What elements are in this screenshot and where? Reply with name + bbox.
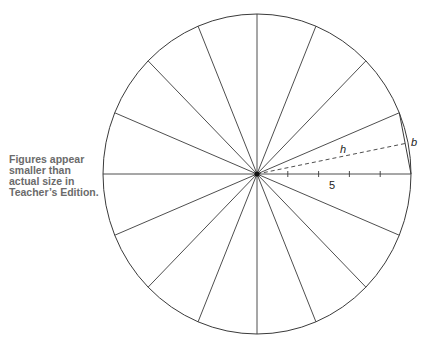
spoke-line bbox=[198, 174, 257, 322]
sector-circle-diagram: h b 5 bbox=[0, 0, 428, 348]
spoke-line bbox=[198, 26, 257, 174]
spoke-line bbox=[115, 174, 257, 235]
radius-label: 5 bbox=[329, 179, 335, 191]
spoke-line bbox=[115, 113, 257, 174]
spoke-line bbox=[257, 174, 366, 287]
center-point bbox=[254, 171, 259, 176]
spoke-line bbox=[257, 26, 316, 174]
spoke-line bbox=[148, 61, 257, 174]
spoke-line bbox=[257, 174, 316, 322]
spoke-line bbox=[257, 61, 366, 174]
base-label: b bbox=[411, 136, 417, 148]
height-h-dashed bbox=[257, 144, 405, 175]
base-chord-b bbox=[399, 113, 411, 174]
height-label: h bbox=[340, 143, 346, 155]
spoke-line bbox=[148, 174, 257, 287]
spoke-line bbox=[257, 113, 399, 174]
